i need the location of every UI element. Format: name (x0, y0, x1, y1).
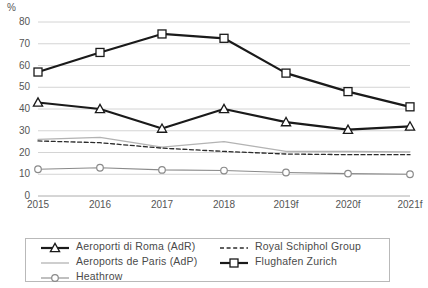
legend-item[interactable]: Royal Schiphol Group (219, 239, 361, 253)
series-marker (97, 164, 104, 171)
legend-label: Royal Schiphol Group (255, 240, 361, 252)
legend-label: Flughafen Zurich (255, 255, 337, 267)
series-line (38, 137, 410, 152)
legend-item[interactable]: Heathrow (40, 269, 123, 283)
series-marker (159, 167, 166, 174)
legend-item[interactable]: Aeroporti di Roma (AdR) (40, 239, 196, 253)
legend-item[interactable]: Flughafen Zurich (219, 254, 337, 268)
legend-swatch (40, 240, 70, 252)
chart-legend: Aeroporti di Roma (AdR)Aeroports de Pari… (25, 238, 390, 282)
series-marker (158, 30, 166, 38)
series-marker (96, 48, 104, 56)
legend-label: Aeroports de Paris (AdP) (76, 255, 198, 267)
series-marker (344, 88, 352, 96)
series-marker (283, 169, 290, 176)
legend-swatch (40, 270, 70, 282)
legend-swatch (219, 240, 249, 252)
legend-swatch (40, 255, 70, 267)
series-marker (282, 69, 290, 77)
legend-swatch (219, 255, 249, 267)
legend-label: Aeroporti di Roma (AdR) (76, 240, 196, 252)
series-marker (221, 167, 228, 174)
series-marker (406, 103, 414, 111)
legend-label: Heathrow (76, 270, 123, 282)
series-marker (220, 34, 228, 42)
series-line (38, 34, 410, 107)
legend-item[interactable]: Aeroports de Paris (AdP) (40, 254, 198, 268)
series-marker (407, 171, 414, 178)
series-marker (35, 166, 42, 173)
series-marker (34, 68, 42, 76)
series-marker (345, 170, 352, 177)
